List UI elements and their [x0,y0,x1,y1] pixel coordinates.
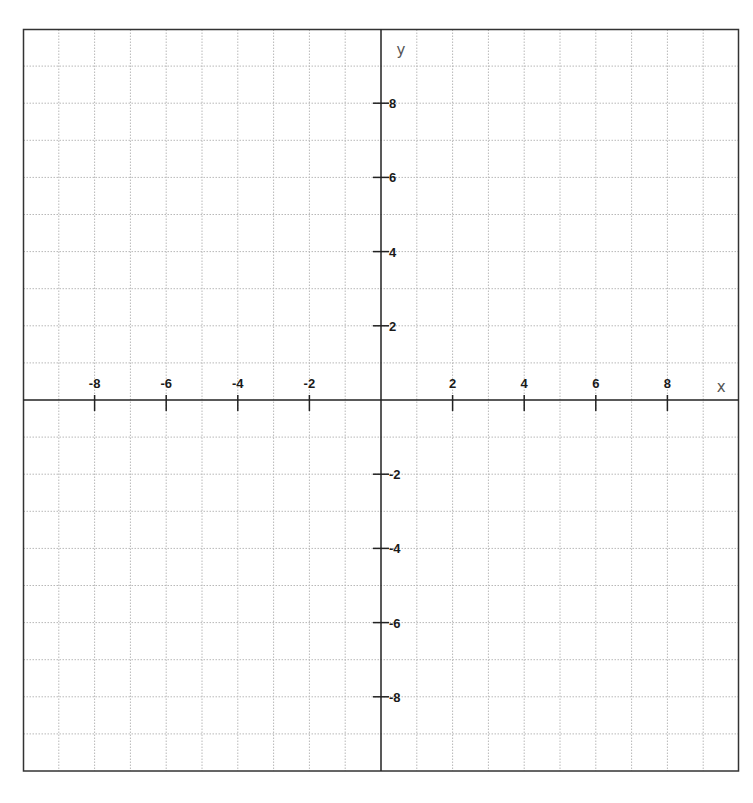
y-tick-label: 8 [389,96,396,111]
x-tick-label: 6 [592,376,599,391]
x-tick-label: 4 [521,376,529,391]
y-tick-label: -8 [389,690,401,705]
y-tick-label: 6 [389,170,396,185]
y-tick-label: -6 [389,616,401,631]
y-axis-label: y [397,41,406,59]
y-tick-label: -2 [389,467,401,482]
x-tick-label: -4 [232,376,244,391]
y-tick-label: -4 [389,541,401,556]
x-tick-label: -6 [160,376,172,391]
y-tick-label: 4 [389,245,397,260]
x-tick-label: -2 [304,376,316,391]
coordinate-plane: -8-6-4-22468 8642-2-4-6-8 x y [0,0,753,803]
x-axis-label: x [717,378,726,396]
x-tick-label: 8 [664,376,671,391]
y-tick-label: 2 [389,319,396,334]
x-tick-label: 2 [449,376,456,391]
x-axis-ticks: -8-6-4-22468 [89,376,671,411]
x-tick-label: -8 [89,376,101,391]
